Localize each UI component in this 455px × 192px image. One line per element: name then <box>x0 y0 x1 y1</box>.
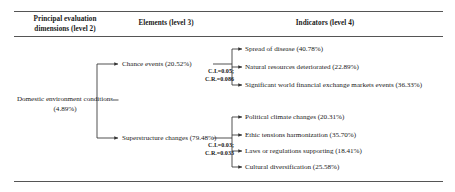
node-level4-indicator: Cultural diversification (25.58%) <box>245 163 339 173</box>
node-level4-indicator: Political climate changes (20.31%) <box>245 113 344 123</box>
hierarchy-diagram: Principal evaluation dimensions (level 2… <box>0 0 455 192</box>
ci-value-superstructure-changes: C.I.=0.03; <box>150 142 234 150</box>
ci-value-chance-events: C.I.=0.05; <box>150 68 234 76</box>
node-level4-indicator: Spread of disease (40.78%) <box>245 45 323 55</box>
consistency-ratio-chance-events: C.I.=0.05; C.R.=0.086 <box>150 68 234 83</box>
node-level4-indicator: Ethic tensions harmonization (35.70%) <box>245 131 356 141</box>
node-level2-root: Domestic environment conditions (4.89%) <box>16 95 114 114</box>
cr-value-chance-events: C.R.=0.086 <box>150 76 234 84</box>
column-header-level4: Indicators (level 4) <box>226 19 424 29</box>
table-rule-header <box>14 36 443 37</box>
cr-value-superstructure-changes: C.R.=0.033 <box>150 150 234 158</box>
column-header-level2: Principal evaluation dimensions (level 2… <box>18 15 112 34</box>
node-level4-indicator: Significant world financial exchange mar… <box>245 81 422 91</box>
table-rule-bottom <box>14 181 443 182</box>
column-header-level3: Elements (level 3) <box>120 19 212 29</box>
node-level4-indicator: Laws or regulations supporting (18.41%) <box>245 147 362 157</box>
table-rule-top <box>14 11 443 12</box>
consistency-ratio-superstructure-changes: C.I.=0.03; C.R.=0.033 <box>150 142 234 157</box>
node-level4-indicator: Natural resources deteriorated (22.89%) <box>245 63 359 73</box>
